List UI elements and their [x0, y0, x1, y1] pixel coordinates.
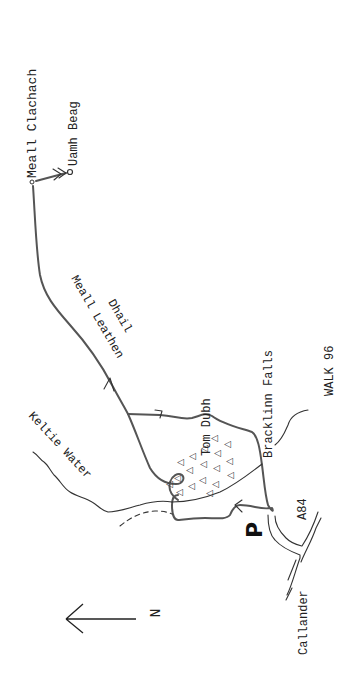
label-a84: A84 — [296, 498, 310, 520]
conifer-tree-icon: △ — [222, 441, 232, 448]
conifer-tree-icon: △ — [197, 477, 207, 484]
conifer-tree-icon: △ — [225, 472, 235, 479]
conifer-tree-icon: △ — [224, 458, 234, 465]
conifer-tree-icon: △ — [211, 465, 221, 472]
label-tom-dubh: Tom Dubh — [200, 398, 214, 456]
conifer-tree-icon: △ — [210, 481, 220, 488]
conifer-tree-icon: △ — [186, 483, 196, 490]
conifer-tree-icon: △ — [164, 481, 174, 488]
cave-marker-icon — [68, 170, 73, 175]
north-arrow-icon — [66, 604, 136, 633]
north-label: N — [148, 608, 165, 617]
conifer-tree-icon: △ — [184, 467, 194, 474]
conifer-tree-icon: △ — [198, 461, 208, 468]
bracklinn-stream — [275, 410, 308, 445]
walk-map: △ △ △ △ △ △ △ △ △ △ △ △ △ △ △ △ △ △ Meal… — [0, 0, 356, 690]
conifer-tree-icon: △ — [172, 475, 182, 482]
label-keltie-water: Keltie Water — [25, 409, 94, 482]
track-dashed — [120, 511, 172, 526]
keltie-water-river — [33, 452, 172, 512]
parking-icon: P — [242, 522, 267, 538]
a84-road-east2 — [301, 518, 321, 562]
conifer-tree-icon: △ — [204, 490, 214, 497]
conifer-tree-icon: △ — [174, 489, 184, 496]
map-title: WALK 96 — [323, 346, 337, 396]
label-meall-clachach: Meall Clachach — [25, 69, 40, 178]
summit-marker-icon — [30, 180, 34, 184]
label-uamh-beag: Uamh Beag — [67, 101, 81, 166]
conifer-tree-icon: △ — [187, 453, 197, 460]
label-callander: Callander — [297, 590, 311, 655]
direction-arrow-icon — [104, 378, 114, 391]
label-bracklinn-falls: Bracklinn Falls — [262, 350, 276, 458]
a84-road-west — [268, 515, 300, 595]
loop-route-south — [172, 495, 270, 520]
conifer-tree-icon: △ — [175, 459, 185, 466]
